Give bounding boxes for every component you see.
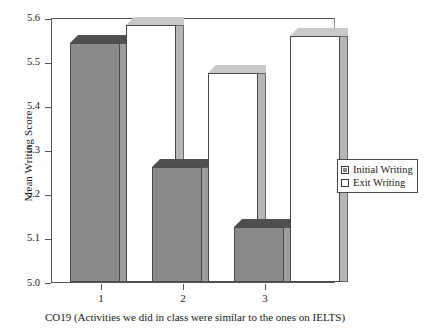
legend-label-initial-writing: Initial Writing bbox=[353, 164, 413, 175]
bar-top-face bbox=[208, 65, 266, 73]
chart-legend: Initial Writing Exit Writing bbox=[337, 159, 418, 193]
bar-initial-1 bbox=[70, 35, 120, 282]
bar-front bbox=[234, 227, 284, 282]
bar-chart: Mean Writing Score 5.0 5.1 5.2 5.3 5.4 5… bbox=[0, 0, 425, 330]
y-tick-label-5.3: 5.3 bbox=[10, 145, 40, 155]
plot-area bbox=[51, 18, 335, 283]
bar-top-face bbox=[234, 219, 292, 227]
x-tick-mark-2 bbox=[183, 284, 184, 290]
bar-front bbox=[70, 43, 120, 282]
bar-top-face bbox=[70, 35, 128, 43]
legend-swatch-filled-square-icon bbox=[341, 166, 349, 174]
x-tick-label-3: 3 bbox=[250, 292, 280, 304]
x-tick-mark-3 bbox=[265, 284, 266, 290]
y-tick-label-5.0: 5.0 bbox=[10, 278, 40, 288]
x-tick-mark-1 bbox=[101, 284, 102, 290]
bar-front bbox=[290, 36, 340, 282]
y-axis-title: Mean Writing Score bbox=[22, 66, 34, 246]
legend-label-exit-writing: Exit Writing bbox=[353, 177, 405, 188]
y-tick-label-5.5: 5.5 bbox=[10, 57, 40, 67]
y-tick-label-5.4: 5.4 bbox=[10, 101, 40, 111]
x-tick-label-1: 1 bbox=[86, 292, 116, 304]
bar-initial-2 bbox=[152, 159, 202, 282]
bar-exit-3 bbox=[290, 28, 340, 282]
x-tick-label-2: 2 bbox=[168, 292, 198, 304]
y-tick-label-5.2: 5.2 bbox=[10, 189, 40, 199]
bar-front bbox=[152, 167, 202, 282]
legend-item-initial-writing: Initial Writing bbox=[341, 163, 413, 176]
y-tick-mark-5.0 bbox=[45, 283, 51, 284]
bar-top-face bbox=[290, 28, 348, 36]
x-axis-title: CO19 (Activities we did in class were si… bbox=[0, 311, 390, 323]
bar-top-face bbox=[152, 159, 210, 167]
bar-initial-3 bbox=[234, 219, 284, 282]
legend-item-exit-writing: Exit Writing bbox=[341, 176, 413, 189]
bar-top-face bbox=[126, 17, 184, 25]
y-tick-label-5.1: 5.1 bbox=[10, 233, 40, 243]
legend-swatch-empty-square-icon bbox=[341, 179, 349, 187]
y-tick-label-5.6: 5.6 bbox=[10, 13, 40, 23]
